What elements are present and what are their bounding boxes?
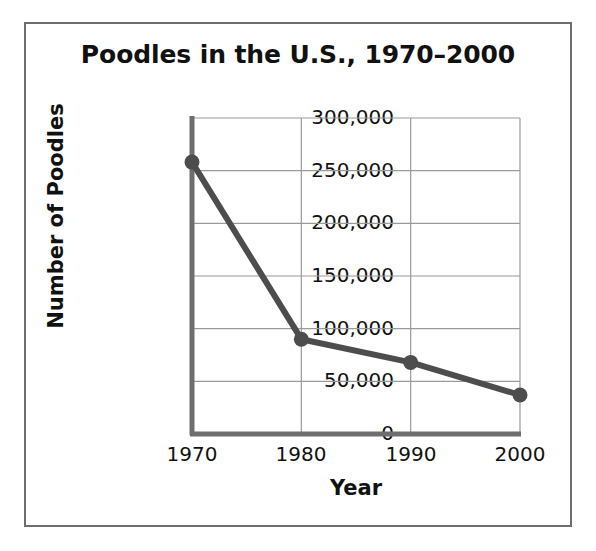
- data-point-1970: [185, 155, 200, 170]
- data-series-poodles: [185, 155, 528, 403]
- chart-figure: Poodles in the U.S., 1970–2000 Number of…: [24, 22, 572, 527]
- y-axis-title: Number of Poodles: [44, 91, 68, 341]
- grid-lines: [192, 118, 520, 434]
- plot-svg: [178, 104, 534, 448]
- data-point-2000: [513, 388, 528, 403]
- data-line: [192, 162, 520, 395]
- data-point-1980: [294, 332, 309, 347]
- x-axis-title: Year: [192, 476, 520, 500]
- plot-area: [192, 118, 520, 434]
- data-point-1990: [403, 355, 418, 370]
- chart-title: Poodles in the U.S., 1970–2000: [26, 40, 570, 69]
